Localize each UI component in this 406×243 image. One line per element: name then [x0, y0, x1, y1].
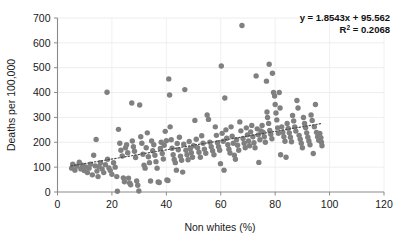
- regression-equation-label: y = 1.8543x + 95.562: [300, 12, 390, 23]
- scatter-point: [157, 180, 162, 185]
- x-tick-label: 20: [106, 198, 118, 210]
- scatter-point: [259, 123, 264, 128]
- scatter-point: [192, 118, 197, 123]
- scatter-point: [265, 115, 270, 120]
- scatter-point: [260, 130, 265, 135]
- scatter-point: [90, 172, 95, 177]
- y-tick-label: 500: [33, 61, 51, 73]
- scatter-point: [93, 137, 98, 142]
- scatter-point: [196, 150, 201, 155]
- scatter-point: [274, 117, 279, 122]
- scatter-point: [170, 152, 175, 157]
- scatter-point: [238, 128, 243, 133]
- scatter-point: [164, 138, 169, 143]
- scatter-point: [313, 102, 318, 107]
- x-axis-title: Non whites (%): [184, 221, 255, 233]
- scatter-point: [251, 140, 256, 145]
- chart-canvas: 0100200300400500600700020406080100120 De…: [0, 0, 406, 243]
- scatter-point: [165, 178, 170, 183]
- scatter-point: [233, 156, 238, 161]
- scatter-point: [311, 151, 316, 156]
- scatter-point: [239, 23, 244, 28]
- scatter-point: [174, 167, 179, 172]
- scatter-point: [300, 145, 305, 150]
- scatter-point: [91, 153, 96, 158]
- scatter-point: [135, 183, 140, 188]
- scatter-point: [291, 118, 296, 123]
- scatter-point: [114, 174, 119, 179]
- scatter-point: [319, 143, 324, 148]
- scatter-point: [166, 76, 171, 81]
- scatter-point: [237, 119, 242, 124]
- scatter-point: [317, 131, 322, 136]
- scatter-point: [295, 105, 300, 110]
- scatter-point: [266, 121, 271, 126]
- scatter-point: [249, 123, 254, 128]
- scatter-point: [281, 134, 286, 139]
- scatter-point: [248, 129, 253, 134]
- scatter-point: [206, 117, 211, 122]
- scatter-point: [125, 150, 130, 155]
- scatter-point: [213, 124, 218, 129]
- scatter-point: [269, 136, 274, 141]
- scatter-point: [179, 157, 184, 162]
- scatter-point: [153, 159, 158, 164]
- scatter-point: [272, 102, 277, 107]
- scatter-point: [214, 133, 219, 138]
- scatter-point: [144, 145, 149, 150]
- scatter-point: [277, 105, 282, 110]
- scatter-point: [262, 134, 267, 139]
- scatter-point: [270, 70, 275, 75]
- scatter-point: [190, 155, 195, 160]
- scatter-point: [290, 113, 295, 118]
- scatter-point: [194, 137, 199, 142]
- scatter-point: [142, 165, 147, 170]
- x-tick-label: 60: [215, 198, 227, 210]
- scatter-point: [272, 93, 277, 98]
- scatter-point: [182, 87, 187, 92]
- scatter-point: [148, 178, 153, 183]
- scatter-point: [289, 139, 294, 144]
- scatter-point: [266, 62, 271, 67]
- scatter-point: [278, 152, 283, 157]
- scatter-point: [189, 150, 194, 155]
- scatter-point: [128, 182, 133, 187]
- y-tick-label: 700: [33, 12, 51, 24]
- scatter-point: [130, 138, 135, 143]
- scatter-point: [154, 165, 159, 170]
- scatter-point: [118, 148, 123, 153]
- scatter-point: [301, 115, 306, 120]
- scatter-point: [104, 90, 109, 95]
- scatter-point: [211, 152, 216, 157]
- y-tick-label: 400: [33, 86, 51, 98]
- scatter-point: [221, 167, 226, 172]
- scatter-point: [252, 145, 257, 150]
- scatter-point: [253, 73, 258, 78]
- scatter-point: [294, 98, 299, 103]
- scatter-point: [122, 179, 127, 184]
- scatter-point: [264, 109, 269, 114]
- scatter-point: [246, 138, 251, 143]
- scatter-point: [235, 143, 240, 148]
- scatter-point: [126, 175, 131, 180]
- scatter-point: [293, 128, 298, 133]
- scatter-point: [132, 149, 137, 154]
- x-tick-label: 120: [375, 198, 393, 210]
- scatter-point: [146, 154, 151, 159]
- scatter-point: [199, 133, 204, 138]
- scatter-point: [147, 160, 152, 165]
- scatter-chart: 0100200300400500600700020406080100120 De…: [0, 0, 406, 243]
- scatter-point: [151, 142, 156, 147]
- scatter-point: [277, 90, 282, 95]
- scatter-point: [256, 160, 261, 165]
- scatter-point: [173, 160, 178, 165]
- scatter-point: [288, 135, 293, 140]
- scatter-point: [129, 100, 134, 105]
- scatter-point: [131, 144, 136, 149]
- scatter-point: [198, 155, 203, 160]
- scatter-point: [112, 164, 117, 169]
- scatter-point: [203, 151, 208, 156]
- y-tick-label: 600: [33, 37, 51, 49]
- chart-background: [0, 0, 406, 243]
- scatter-point: [308, 112, 313, 117]
